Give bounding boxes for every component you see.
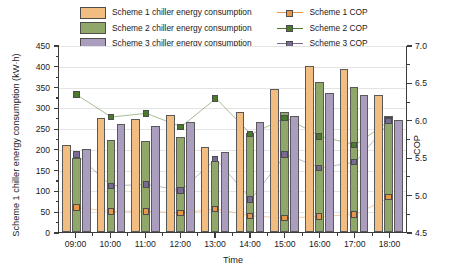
y-axis-left-tick-label: 0 xyxy=(16,228,50,238)
bar[interactable] xyxy=(211,161,220,232)
legend-label-scheme2-bars: Scheme 2 chiller energy consumption xyxy=(112,24,252,32)
bar[interactable] xyxy=(62,145,71,232)
cop-marker[interactable] xyxy=(143,208,149,214)
x-axis-minor-tick xyxy=(162,233,163,236)
bar-group xyxy=(371,46,406,232)
x-axis-tick-label: 11:00 xyxy=(128,239,163,253)
legend-item-scheme2-cop[interactable]: Scheme 2 COP xyxy=(277,22,410,35)
cop-marker[interactable] xyxy=(316,165,322,171)
cop-marker[interactable] xyxy=(247,196,253,202)
bar[interactable] xyxy=(270,89,279,232)
bar[interactable] xyxy=(131,119,140,232)
y-axis-right-tick-label: 5.5 xyxy=(415,153,427,163)
x-axis-tick xyxy=(389,233,390,238)
x-axis-tick-label: 15:00 xyxy=(267,239,302,253)
cop-marker[interactable] xyxy=(212,156,218,162)
x-axis-minor-tick xyxy=(372,233,373,236)
y-axis-left-tick-label: 450 xyxy=(16,41,50,51)
legend-bar-entries: Scheme 1 chiller energy consumption Sche… xyxy=(80,6,271,50)
x-axis-tick xyxy=(180,233,181,238)
bar[interactable] xyxy=(72,158,81,232)
y-axis-left-tick-label: 200 xyxy=(16,145,50,155)
legend-item-scheme2-bars[interactable]: Scheme 2 chiller energy consumption xyxy=(80,22,271,35)
x-axis-tick xyxy=(214,233,215,238)
cop-marker[interactable] xyxy=(385,194,391,200)
cop-marker[interactable] xyxy=(316,213,322,219)
legend-swatch-scheme2 xyxy=(80,22,106,34)
cop-marker[interactable] xyxy=(316,133,322,139)
bar[interactable] xyxy=(325,93,334,232)
cop-marker[interactable] xyxy=(281,215,287,221)
cop-marker[interactable] xyxy=(212,95,218,101)
bar[interactable] xyxy=(340,69,349,232)
cop-marker[interactable] xyxy=(108,183,114,189)
bar[interactable] xyxy=(176,137,185,232)
bar[interactable] xyxy=(315,82,324,232)
bar[interactable] xyxy=(166,115,175,232)
x-axis-title: Time xyxy=(0,255,466,265)
cop-marker[interactable] xyxy=(108,114,114,120)
bar-groups xyxy=(59,46,406,232)
y-axis-right-tick-label: 6.0 xyxy=(415,116,427,126)
bar-group xyxy=(128,46,163,232)
cop-marker[interactable] xyxy=(177,187,183,193)
bar[interactable] xyxy=(201,147,210,232)
cop-marker[interactable] xyxy=(177,124,183,130)
bar[interactable] xyxy=(374,95,383,232)
bar[interactable] xyxy=(384,116,393,232)
legend-swatch-scheme1 xyxy=(80,7,106,19)
bar[interactable] xyxy=(360,95,369,232)
cop-marker[interactable] xyxy=(73,204,79,210)
y-axis-left-tick-label: 100 xyxy=(16,186,50,196)
bar[interactable] xyxy=(97,118,106,232)
y-axis-right-tick-label: 7.0 xyxy=(415,41,427,51)
cop-marker[interactable] xyxy=(73,91,79,97)
bar[interactable] xyxy=(186,122,195,232)
cop-marker[interactable] xyxy=(73,151,79,157)
legend-item-scheme1-bars[interactable]: Scheme 1 chiller energy consumption xyxy=(80,6,271,19)
cop-marker[interactable] xyxy=(108,208,114,214)
x-axis-tick-label: 17:00 xyxy=(337,239,372,253)
y-axis-right-tick-label: 6.5 xyxy=(415,78,427,88)
x-axis-tick xyxy=(145,233,146,238)
bar[interactable] xyxy=(82,149,91,232)
cop-marker[interactable] xyxy=(247,131,253,137)
y-axis-left-tick-label: 300 xyxy=(16,103,50,113)
bar[interactable] xyxy=(290,116,299,232)
cop-marker[interactable] xyxy=(143,181,149,187)
x-axis-minor-tick xyxy=(302,233,303,236)
y-axis-left-tick-label: 400 xyxy=(16,62,50,72)
cop-marker[interactable] xyxy=(385,118,391,124)
cop-marker[interactable] xyxy=(351,142,357,148)
bar[interactable] xyxy=(394,120,403,232)
bar[interactable] xyxy=(256,122,265,232)
cop-marker[interactable] xyxy=(143,110,149,116)
x-axis-minor-tick xyxy=(127,233,128,236)
cop-marker[interactable] xyxy=(351,159,357,165)
bar[interactable] xyxy=(305,66,314,232)
x-axis-tick-label: 16:00 xyxy=(302,239,337,253)
bar[interactable] xyxy=(236,112,245,233)
legend-item-scheme1-cop[interactable]: Scheme 1 COP xyxy=(277,6,410,19)
bar[interactable] xyxy=(117,124,126,232)
legend-label-scheme2-cop: Scheme 2 COP xyxy=(309,24,367,32)
bar[interactable] xyxy=(151,126,160,232)
cop-marker[interactable] xyxy=(351,211,357,217)
bar-group xyxy=(198,46,233,232)
legend-line-entries: Scheme 1 COP Scheme 2 COP Scheme 3 COP xyxy=(271,6,410,50)
cop-marker[interactable] xyxy=(212,206,218,212)
legend-label-scheme1-cop: Scheme 1 COP xyxy=(309,8,367,16)
bar-group xyxy=(267,46,302,232)
cop-marker[interactable] xyxy=(177,210,183,216)
cop-marker[interactable] xyxy=(247,213,253,219)
x-axis-tick xyxy=(110,233,111,238)
x-axis-minor-tick xyxy=(337,233,338,236)
bar-group xyxy=(163,46,198,232)
cop-marker[interactable] xyxy=(281,151,287,157)
x-axis-tick-label: 18:00 xyxy=(372,239,407,253)
cop-marker[interactable] xyxy=(281,115,287,121)
plot-area xyxy=(58,46,407,233)
bar-group xyxy=(59,46,94,232)
y-axis-left-tick-label: 150 xyxy=(16,166,50,176)
bar[interactable] xyxy=(221,152,230,232)
